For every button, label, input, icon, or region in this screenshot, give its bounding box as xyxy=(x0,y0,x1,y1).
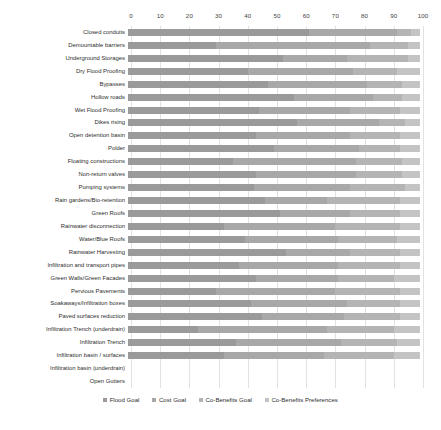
bar-segment xyxy=(198,326,326,333)
category-label: Infiltration and transport pipes xyxy=(0,262,128,269)
chart-row: Paved surfaces reduction xyxy=(0,310,441,323)
legend-label: Co-Benefits Goal xyxy=(206,396,252,403)
bar-segment xyxy=(344,313,399,320)
category-label: Underground Storages xyxy=(0,55,128,62)
x-tick-label-10: 10 xyxy=(157,12,164,19)
bar-segment xyxy=(294,94,373,101)
legend-label: Flood Goal xyxy=(110,396,140,403)
bar-segment xyxy=(233,158,356,165)
bar-segment xyxy=(335,223,399,230)
bar-segment xyxy=(128,300,251,307)
stacked-bar xyxy=(128,119,420,126)
bar-segment xyxy=(280,210,350,217)
x-tick-label-70: 70 xyxy=(332,12,339,19)
stacked-bar xyxy=(128,249,420,256)
bar-segment xyxy=(128,275,256,282)
category-label: Non-return valves xyxy=(0,171,128,178)
category-label: Paved surfaces reduction xyxy=(0,313,128,320)
stacked-bar xyxy=(128,326,420,333)
bar-segment xyxy=(400,107,420,114)
bar-segment xyxy=(128,81,268,88)
bar-segment xyxy=(400,313,420,320)
bar-segment xyxy=(359,145,400,152)
stacked-bar xyxy=(128,275,420,282)
x-tick-label-60: 60 xyxy=(303,12,310,19)
bar-segment xyxy=(324,352,394,359)
bar-segment xyxy=(394,326,420,333)
stacked-bar xyxy=(128,197,420,204)
x-tick-label-20: 20 xyxy=(186,12,193,19)
bar-segment xyxy=(373,94,402,101)
stacked-bar xyxy=(128,352,420,359)
bar-segment xyxy=(128,119,297,126)
category-label: Open detention basin xyxy=(0,132,128,139)
bar-segment xyxy=(353,68,397,75)
bar-segment xyxy=(251,300,347,307)
stacked-bar xyxy=(128,55,420,62)
chart-row: Pumping systems xyxy=(0,181,441,194)
chart-row: Underground Storages xyxy=(0,52,441,65)
bar-segment xyxy=(309,29,397,36)
bar-segment xyxy=(397,29,412,36)
chart-row: Bypasses xyxy=(0,78,441,91)
category-label: Pervious Pavements xyxy=(0,288,128,295)
chart-legend: Flood GoalCost GoalCo-Benefits GoalCo-Be… xyxy=(0,396,441,403)
legend-swatch-icon xyxy=(199,398,203,402)
chart-row: Closed conduits xyxy=(0,26,441,39)
category-label: Infiltration basin / surfaces xyxy=(0,352,128,359)
category-label: Rainwater disconnection xyxy=(0,223,128,230)
category-label: Soakaways/Infiltration boxes xyxy=(0,300,128,307)
chart-row: Green Walls/Green Facades xyxy=(0,272,441,285)
bar-segment xyxy=(402,171,420,178)
chart-row: Dikes rising xyxy=(0,117,441,130)
bar-segment xyxy=(356,158,403,165)
chart-row: Wet Flood Proofing xyxy=(0,104,441,117)
chart-row: Open Gutters xyxy=(0,375,441,388)
bar-segment xyxy=(400,300,420,307)
bar-segment xyxy=(128,171,256,178)
legend-label: Cost Goal xyxy=(159,396,186,403)
bar-segment xyxy=(411,29,420,36)
bar-segment xyxy=(128,107,259,114)
chart-row: Demountable barriers xyxy=(0,39,441,52)
category-label: Demountable barriers xyxy=(0,42,128,49)
bar-segment xyxy=(347,55,408,62)
x-tick-label-90: 90 xyxy=(390,12,397,19)
category-label: Polder xyxy=(0,145,128,152)
category-label: Water/Blue Roofs xyxy=(0,236,128,243)
stacked-bar xyxy=(128,81,420,88)
bar-segment xyxy=(379,119,405,126)
bar-segment xyxy=(400,223,420,230)
chart-row: Infiltration basin (underdrain) xyxy=(0,362,441,375)
bar-segment xyxy=(128,326,198,333)
stacked-bar xyxy=(128,210,420,217)
stacked-bar xyxy=(128,378,420,385)
x-axis-tick-labels: 0102030405060708090100 xyxy=(131,12,423,24)
legend-item: Cost Goal xyxy=(152,396,186,403)
category-label: Green Roofs xyxy=(0,210,128,217)
category-label: Dikes rising xyxy=(0,119,128,126)
stacked-bar xyxy=(128,158,420,165)
x-tick-label-0: 0 xyxy=(129,12,133,19)
bar-segment xyxy=(400,249,420,256)
bar-segment xyxy=(128,197,265,204)
bar-segment xyxy=(367,81,402,88)
chart-row: Rainwater Harvesting xyxy=(0,246,441,259)
stacked-bar xyxy=(128,29,420,36)
bar-segment xyxy=(128,262,239,269)
bar-segment xyxy=(400,210,420,217)
bar-segment xyxy=(338,236,396,243)
bar-segment xyxy=(397,339,420,346)
category-label: Rainwater Harvesting xyxy=(0,249,128,256)
bar-segment xyxy=(256,171,355,178)
bar-segment xyxy=(286,249,350,256)
x-tick-label-40: 40 xyxy=(244,12,251,19)
bar-segment xyxy=(327,197,400,204)
bar-segment xyxy=(268,81,367,88)
category-label: Open Gutters xyxy=(0,378,128,385)
bar-segment xyxy=(327,326,394,333)
bar-segment xyxy=(350,210,400,217)
stacked-bar xyxy=(128,94,420,101)
bar-segment xyxy=(224,352,323,359)
bar-segment xyxy=(350,107,400,114)
